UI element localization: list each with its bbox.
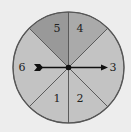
- sector-label-5: 5: [54, 22, 61, 35]
- sector-label-6: 6: [19, 61, 26, 74]
- spinner-hub: [66, 65, 72, 71]
- sector-label-4: 4: [77, 22, 84, 35]
- spinner-svg: 543216: [0, 0, 131, 132]
- sector-label-1: 1: [54, 92, 61, 105]
- sector-label-2: 2: [77, 92, 84, 105]
- spinner-diagram: 543216: [0, 0, 131, 132]
- sector-label-3: 3: [110, 61, 117, 74]
